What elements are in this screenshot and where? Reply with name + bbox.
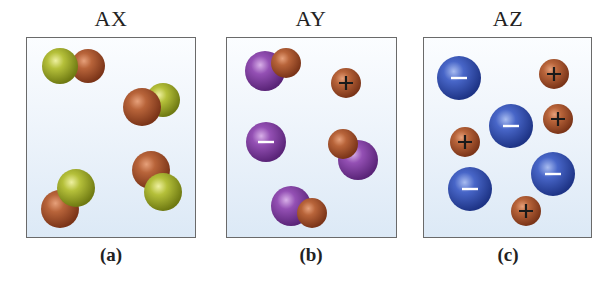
panel-a-title: AX <box>26 6 196 32</box>
panel-a-caption: (a) <box>26 244 196 266</box>
panel-c-title: AZ <box>423 6 593 32</box>
panel-a-box <box>26 37 196 238</box>
panel-b-title: AY <box>226 6 396 32</box>
panel-b-box <box>226 37 397 238</box>
panel-c-box <box>423 37 592 238</box>
panel-b-caption: (b) <box>226 244 396 266</box>
panel-c-caption: (c) <box>423 244 593 266</box>
